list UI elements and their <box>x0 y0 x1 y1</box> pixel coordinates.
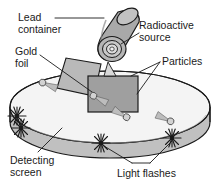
label-lead-container: Lead container <box>18 12 61 35</box>
label-light-flashes: Light flashes <box>117 168 176 180</box>
label-particles: Particles <box>162 56 202 68</box>
label-detecting-screen: Detecting screen <box>10 155 54 178</box>
figure-canvas: Lead container Radioactive source Gold f… <box>0 0 220 192</box>
label-radioactive-source: Radioactive source <box>139 20 194 43</box>
radioactive-source-aperture <box>98 37 126 62</box>
label-gold-foil: Gold foil <box>15 46 37 69</box>
